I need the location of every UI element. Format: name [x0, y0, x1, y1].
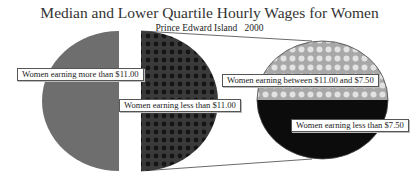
- label-less-than-750: Women earning less than $7.50: [291, 119, 409, 132]
- pie-chart-graphic: [0, 0, 419, 179]
- label-less-than-11: Women earning less than $11.00: [119, 99, 241, 112]
- label-more-than-11: Women earning more than $11.00: [17, 68, 144, 81]
- slice-between-11-and-750: [257, 41, 388, 100]
- label-between-11-and-750: Women earning between $11.00 and $7.50: [222, 74, 379, 87]
- slice-more-than-11: [42, 31, 119, 171]
